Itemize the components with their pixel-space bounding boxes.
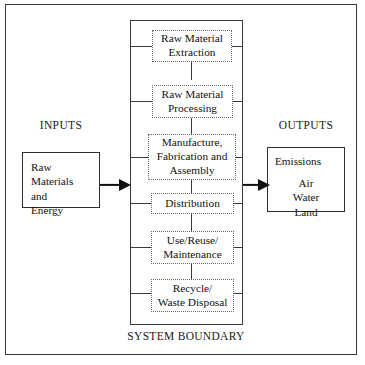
connector-manufacture-to-distribution bbox=[191, 180, 192, 193]
connector-extraction-to-processing bbox=[191, 62, 192, 80]
stage-line-1: Raw Material bbox=[162, 88, 224, 102]
connector-right-manufacture bbox=[236, 157, 243, 158]
inputs-line-3: and bbox=[31, 189, 73, 203]
stage-line-1: Raw Material bbox=[161, 32, 223, 46]
outputs-item-list: Air Water Land bbox=[268, 176, 344, 219]
connector-right-raw-material-processing bbox=[233, 101, 243, 102]
stage-label-use-reuse-maintenance: Use/Reuse/ Maintenance bbox=[163, 234, 221, 262]
outputs-arrow bbox=[243, 178, 271, 192]
stage-box-recycle-waste-disposal[interactable]: Recycle/ Waste Disposal bbox=[151, 279, 234, 312]
stage-label-distribution: Distribution bbox=[165, 197, 220, 211]
stage-line-1: Use/Reuse/ bbox=[163, 234, 221, 248]
stage-label-raw-material-extraction: Raw Material Extraction bbox=[161, 32, 223, 60]
connector-distribution-to-use bbox=[191, 214, 192, 231]
outputs-heading: Emissions bbox=[275, 154, 321, 168]
stage-box-raw-material-processing[interactable]: Raw Material Processing bbox=[152, 85, 233, 118]
connector-use-to-recycle bbox=[191, 264, 192, 279]
stage-line-1: Recycle/ bbox=[158, 282, 228, 296]
system-boundary-caption: SYSTEM BOUNDARY bbox=[76, 330, 296, 342]
outputs-label: OUTPUTS bbox=[267, 119, 345, 131]
outputs-item-land: Land bbox=[268, 205, 344, 219]
stage-label-recycle-waste-disposal: Recycle/ Waste Disposal bbox=[158, 282, 228, 310]
connector-left-distribution bbox=[131, 203, 151, 204]
connector-left-manufacture bbox=[131, 157, 149, 158]
stage-box-manufacture-fabrication-assembly[interactable]: Manufacture, Fabrication and Assembly bbox=[148, 134, 236, 180]
stage-line-2: Processing bbox=[162, 102, 224, 116]
stage-label-manufacture-fabrication-assembly: Manufacture, Fabrication and Assembly bbox=[157, 136, 228, 177]
inputs-arrow-shaft bbox=[100, 184, 121, 186]
connector-left-raw-material-extraction bbox=[131, 46, 153, 47]
connector-right-recycle bbox=[234, 293, 243, 294]
stage-box-distribution[interactable]: Distribution bbox=[151, 193, 234, 214]
outputs-box[interactable]: Emissions Air Water Land bbox=[267, 147, 345, 212]
outputs-item-water: Water bbox=[268, 190, 344, 204]
connector-processing-to-manufacture bbox=[191, 118, 192, 134]
connector-right-distribution bbox=[234, 203, 243, 204]
stage-line-3: Assembly bbox=[157, 164, 228, 178]
connector-right-raw-material-extraction bbox=[232, 46, 243, 47]
stage-box-use-reuse-maintenance[interactable]: Use/Reuse/ Maintenance bbox=[151, 231, 234, 264]
connector-left-use-reuse bbox=[131, 247, 151, 248]
connector-left-raw-material-processing bbox=[131, 101, 153, 102]
outputs-item-air: Air bbox=[268, 176, 344, 190]
stage-line-2: Maintenance bbox=[163, 248, 221, 262]
stage-label-raw-material-processing: Raw Material Processing bbox=[162, 88, 224, 116]
inputs-arrow-head-icon bbox=[119, 179, 131, 191]
stage-line-2: Extraction bbox=[161, 46, 223, 60]
inputs-label: INPUTS bbox=[22, 119, 100, 131]
inputs-line-4: Energy bbox=[31, 203, 73, 217]
outputs-arrow-head-icon bbox=[258, 179, 270, 191]
diagram-canvas: Raw Material Extraction Raw Material Pro… bbox=[0, 0, 365, 365]
inputs-box[interactable]: Raw Materials and Energy bbox=[22, 152, 100, 208]
stage-line-2: Fabrication and bbox=[157, 150, 228, 164]
stage-line-1: Manufacture, bbox=[157, 136, 228, 150]
inputs-line-1: Raw bbox=[31, 160, 73, 174]
connector-right-use-reuse bbox=[234, 247, 243, 248]
stage-line-2: Waste Disposal bbox=[158, 296, 228, 310]
stage-box-raw-material-extraction[interactable]: Raw Material Extraction bbox=[152, 30, 232, 62]
inputs-box-text: Raw Materials and Energy bbox=[31, 160, 73, 217]
stage-line-1: Distribution bbox=[165, 197, 220, 211]
inputs-line-2: Materials bbox=[31, 174, 73, 188]
inputs-arrow bbox=[100, 178, 131, 192]
connector-left-recycle bbox=[131, 293, 151, 294]
